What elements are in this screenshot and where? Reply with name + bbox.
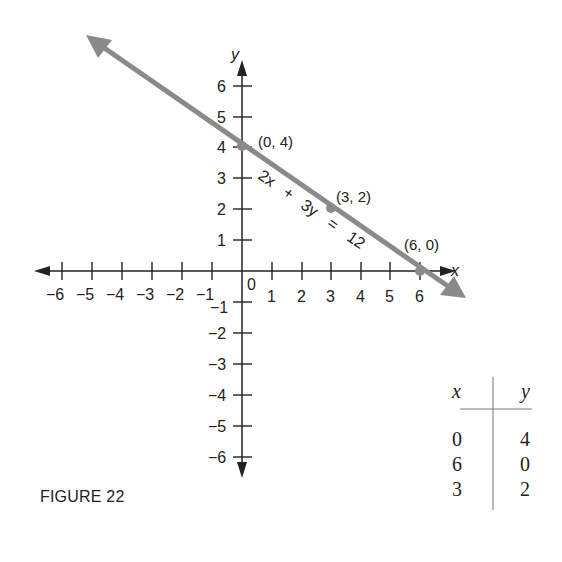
table-header-x: x [452, 380, 494, 403]
x-tick-label: 4 [356, 288, 365, 305]
y-tick-label: −2 [208, 325, 226, 342]
x-tick-label: −2 [166, 286, 184, 303]
point-marker [326, 203, 336, 213]
y-tick-label: 3 [217, 170, 226, 187]
x-axis-label: x [450, 262, 460, 279]
x-tick-label: −6 [46, 286, 64, 303]
y-tick-label: 4 [217, 139, 226, 156]
x-tick-label: 3 [326, 288, 335, 305]
x-tick-label: 2 [297, 288, 306, 305]
x-tick-label: −3 [136, 286, 154, 303]
x-axis: −6 −5 −4 −3 −2 −1 1 2 3 4 5 6 x 0 [34, 262, 460, 305]
figure-caption: FIGURE 22 [40, 488, 125, 506]
y-tick-label: −4 [208, 387, 226, 404]
equation-label: 2x + 3y = 12 [255, 166, 368, 252]
line-arrow-upper-left-icon [86, 35, 112, 58]
y-tick-label: 2 [217, 201, 226, 218]
table-header-row: x y [452, 375, 530, 407]
line-arrow-lower-right-icon [440, 276, 466, 298]
equation-line [86, 35, 466, 298]
y-axis-label: y [230, 46, 240, 63]
y-tick-label: −6 [208, 449, 226, 466]
y-tick-label: −3 [208, 356, 226, 373]
svg-text:=: = [324, 214, 341, 233]
x-tick-label: 6 [415, 288, 424, 305]
x-tick-label: −4 [106, 286, 124, 303]
y-tick-label: −5 [208, 418, 226, 435]
x-tick-label: 1 [267, 288, 276, 305]
point-label: (6, 0) [404, 236, 439, 253]
point-marker [415, 266, 425, 276]
y-tick-label: 6 [217, 78, 226, 95]
x-tick-label: −5 [76, 286, 94, 303]
y-tick-label: 5 [217, 109, 226, 126]
xy-table: x y 0 4 6 0 3 2 [452, 375, 530, 502]
x-tick-label: 5 [385, 288, 394, 305]
table-row: 6 0 [452, 452, 530, 477]
svg-text:+: + [280, 184, 297, 203]
point-label: (3, 2) [336, 188, 371, 205]
table-row: 0 4 [452, 427, 530, 452]
point-marker [237, 141, 247, 151]
table-row: 3 2 [452, 477, 530, 502]
y-axis: 6 5 4 3 2 1 −1 −2 −3 −4 −5 −6 y [208, 46, 252, 478]
y-axis-down-arrow-icon [237, 462, 247, 478]
table-header-y: y [494, 380, 530, 403]
y-tick-label: −1 [210, 299, 228, 316]
x-axis-left-arrow-icon [34, 266, 50, 276]
svg-text:3y: 3y [298, 196, 322, 220]
y-tick-label: 1 [217, 232, 226, 249]
origin-label: 0 [247, 276, 256, 293]
svg-text:2x: 2x [255, 166, 279, 190]
point-label: (0, 4) [258, 133, 293, 150]
